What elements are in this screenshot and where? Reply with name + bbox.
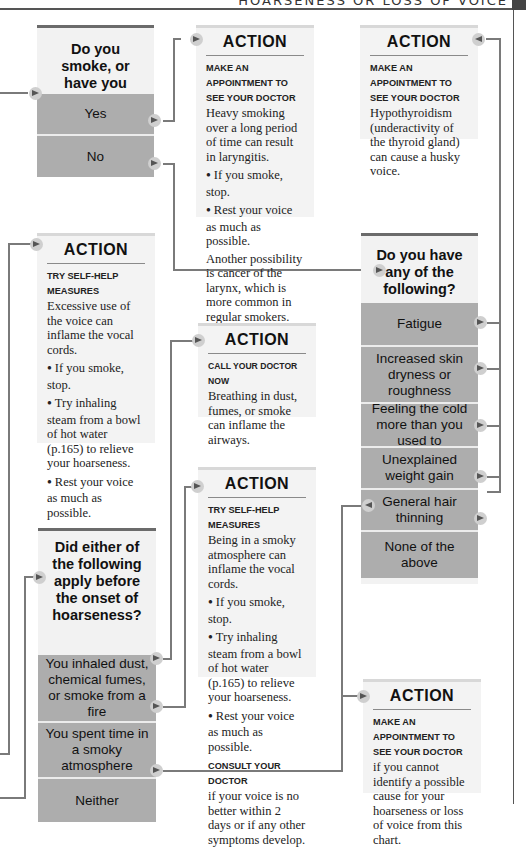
action-fumes: ACTION CALL YOUR DOCTOR NOW Breathing in…: [198, 323, 316, 417]
arrow-right-icon: [148, 114, 161, 127]
action-text: Heavy smoking over a long period of time…: [206, 106, 304, 164]
action-text: Excessive use of the voice can inflame t…: [47, 299, 145, 357]
arrow-left-icon: [472, 33, 485, 46]
action-text: Another possibility is cancer of the lar…: [206, 252, 304, 325]
action-label: CALL YOUR DOCTOR NOW: [208, 359, 306, 389]
connector: [170, 340, 172, 660]
action-title: ACTION: [208, 326, 306, 354]
action-text: Breathing in dust, fumes, or smoke can i…: [208, 389, 306, 447]
connector: [170, 340, 194, 342]
connector: [0, 92, 28, 94]
action-thyroid: ACTION MAKE AN APPOINTMENT TO SEE YOUR D…: [360, 25, 478, 139]
connector: [341, 505, 343, 772]
connector: [487, 322, 499, 324]
question-title: Did either of the following apply before…: [38, 531, 156, 649]
connector: [0, 753, 10, 755]
action-bullet: Rest your voice as much as possible.: [47, 475, 145, 521]
connector: [487, 425, 499, 427]
arrow-right-icon: [474, 470, 487, 483]
connector: [163, 706, 186, 708]
arrow-right-icon: [150, 652, 163, 665]
connector: [499, 38, 501, 493]
option-none[interactable]: None of the above: [361, 532, 478, 578]
arrow-right-icon: [474, 512, 487, 525]
arrow-right-icon: [29, 87, 42, 100]
option-smoky[interactable]: You spent time in a smoky atmosphere: [38, 723, 156, 779]
connector: [173, 38, 175, 120]
connector: [24, 578, 26, 798]
connector: [173, 38, 181, 40]
action-label: CONSULT YOUR DOCTOR: [208, 759, 306, 789]
action-bullet: If you smoke, stop.: [208, 595, 306, 626]
page-edge-line: [513, 10, 514, 804]
question-smoke: Do you smoke, or have you smoked in the …: [37, 25, 154, 174]
arrow-right-icon: [191, 480, 204, 493]
action-overuse: ACTION TRY SELF-HELP MEASURES Excessive …: [37, 233, 155, 443]
arrow-right-icon: [474, 362, 487, 375]
action-bullet: Try inhaling steam from a bowl of hot wa…: [208, 630, 306, 705]
question-symptoms: Do you have any of the following? Fatigu…: [361, 233, 478, 584]
connector: [173, 163, 175, 271]
connector: [487, 476, 499, 478]
action-bullet: If you smoke, stop.: [47, 361, 145, 392]
action-smoking: ACTION MAKE AN APPOINTMENT TO SEE YOUR D…: [196, 25, 314, 217]
action-title: ACTION: [373, 682, 471, 710]
option-neither[interactable]: Neither: [38, 779, 156, 822]
arrow-right-icon: [30, 238, 43, 251]
connector: [486, 38, 501, 40]
action-text: Hypothyroidism (underactivity of the thy…: [370, 106, 468, 179]
action-label: MAKE AN APPOINTMENT TO SEE YOUR DOCTOR: [206, 61, 304, 106]
arrow-right-icon: [150, 764, 163, 777]
arrow-right-icon: [192, 334, 205, 347]
option-cold[interactable]: Feeling the cold more than you used to: [361, 404, 478, 448]
question-onset: Did either of the following apply before…: [38, 528, 156, 797]
option-yes[interactable]: Yes: [37, 94, 154, 136]
arrow-right-icon: [474, 419, 487, 432]
action-title: ACTION: [206, 28, 304, 56]
action-title: ACTION: [47, 236, 145, 264]
connector: [487, 368, 499, 370]
options-list: You inhaled dust, chemical fumes, or smo…: [38, 655, 156, 822]
action-bullet: Rest your voice as much as possible.: [206, 203, 304, 249]
page-edge-tab: [512, 0, 526, 10]
action-unknown: ACTION MAKE AN APPOINTMENT TO SEE YOUR D…: [363, 679, 481, 793]
arrow-right-icon: [33, 571, 46, 584]
connector: [0, 797, 26, 799]
action-label: MAKE AN APPOINTMENT TO SEE YOUR DOCTOR: [373, 715, 471, 760]
connector: [184, 486, 186, 708]
arrow-left-icon: [362, 499, 375, 512]
arrow-right-icon: [150, 700, 163, 713]
connector: [163, 120, 175, 122]
arrow-right-icon: [148, 157, 161, 170]
action-label: TRY SELF-HELP MEASURES: [208, 503, 306, 533]
options-list: Fatigue Increased skin dryness or roughn…: [361, 303, 478, 578]
action-label: MAKE AN APPOINTMENT TO SEE YOUR DOCTOR: [370, 61, 468, 106]
option-no[interactable]: No: [37, 136, 154, 177]
option-inhaled[interactable]: You inhaled dust, chemical fumes, or smo…: [38, 655, 156, 723]
connector: [163, 658, 172, 660]
header-rule: [0, 8, 512, 10]
arrow-right-icon: [474, 316, 487, 329]
action-smoky: ACTION TRY SELF-HELP MEASURES Being in a…: [198, 467, 316, 677]
action-text: if your voice is no better within 2 days…: [208, 789, 306, 847]
action-text: if you cannot identify a possible cause …: [373, 760, 471, 847]
option-skin[interactable]: Increased skin dryness or roughness: [361, 347, 478, 404]
action-bullet: If you smoke, stop.: [206, 168, 304, 199]
arrow-right-icon: [190, 33, 203, 46]
connector: [487, 491, 501, 493]
action-bullet: Rest your voice as much as possible.: [208, 709, 306, 755]
option-hair[interactable]: General hair thinning: [361, 490, 478, 532]
action-bullet: Try inhaling steam from a bowl of hot wa…: [47, 396, 145, 471]
action-title: ACTION: [208, 470, 306, 498]
action-label: TRY SELF-HELP MEASURES: [47, 269, 145, 299]
option-weight[interactable]: Unexplained weight gain: [361, 448, 478, 490]
option-fatigue[interactable]: Fatigue: [361, 303, 478, 347]
action-title: ACTION: [370, 28, 468, 56]
action-text: Being in a smoky atmosphere can inflame …: [208, 533, 306, 591]
connector: [8, 243, 10, 755]
arrow-right-icon: [357, 690, 370, 703]
options-list: Yes No: [37, 94, 154, 177]
arrow-right-icon: [373, 264, 386, 277]
